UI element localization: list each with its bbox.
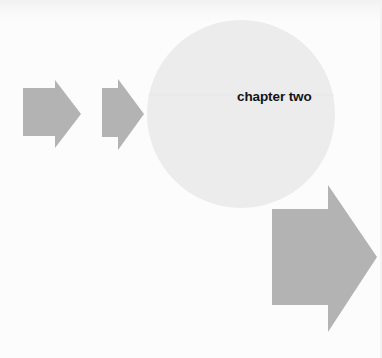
chapter-title: chapter two: [237, 89, 312, 104]
arrow-right-icon: [272, 185, 377, 332]
arrow-right-icon: [102, 79, 144, 150]
page-background: chapter two: [0, 0, 382, 358]
title-circle: [147, 20, 335, 208]
arrow-right-icon: [23, 80, 81, 148]
illustration: [0, 0, 382, 358]
